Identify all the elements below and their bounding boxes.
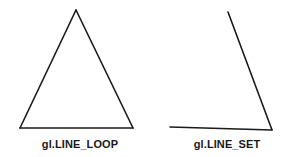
caption-line-set: gl.LINE_SET xyxy=(162,139,292,150)
line-set-segment-1 xyxy=(170,127,272,130)
line-loop-segment-2 xyxy=(20,10,76,128)
line-loop-segment-0 xyxy=(76,10,133,128)
figure-line-set xyxy=(170,12,272,130)
figure-line-loop xyxy=(20,10,133,128)
line-set-segment-0 xyxy=(228,12,272,130)
caption-line-loop: gl.LINE_LOOP xyxy=(0,139,160,150)
primitives-diagram-svg xyxy=(0,0,300,157)
diagram-root: gl.LINE_LOOP gl.LINE_SET xyxy=(0,0,300,157)
